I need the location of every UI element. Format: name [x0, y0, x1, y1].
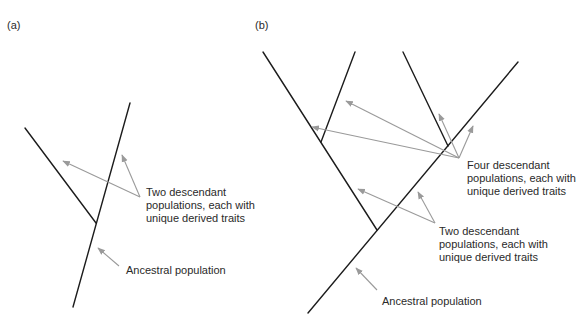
arrow-icon — [312, 127, 459, 158]
arrow-icon — [98, 248, 119, 266]
ancestral-lineage-a — [73, 103, 130, 307]
left-subbranch — [321, 52, 355, 142]
annotation-two-descendants-b: Two descendant populations, each with un… — [439, 225, 548, 264]
panel-a-arrows — [63, 155, 140, 266]
annotation-line: unique derived traits — [439, 251, 548, 264]
annotation-line: unique derived traits — [467, 185, 576, 198]
annotation-two-descendants-a: Two descendant populations, each with un… — [146, 186, 255, 225]
panel-a-tree — [25, 103, 130, 307]
annotation-line: unique derived traits — [146, 212, 255, 225]
annotation-line: populations, each with — [146, 199, 255, 212]
annotation-ancestral-b: Ancestral population — [382, 295, 482, 308]
annotation-line: Two descendant — [146, 186, 255, 199]
left-clade-branch — [263, 52, 377, 230]
arrow-icon — [346, 101, 459, 158]
annotation-line: Two descendant — [439, 225, 548, 238]
arrow-icon — [122, 155, 140, 197]
arrow-icon — [418, 192, 435, 223]
annotation-line: Four descendant — [467, 159, 576, 172]
panel-a-label: (a) — [7, 19, 20, 32]
phylogeny-figure: (a) (b) Two descendant populations, each… — [0, 0, 583, 321]
descendant-branch-a — [25, 128, 96, 223]
arrow-icon — [356, 268, 377, 290]
annotation-four-descendants-b: Four descendant populations, each with u… — [467, 159, 576, 198]
annotation-ancestral-a: Ancestral population — [126, 264, 226, 277]
annotation-line: populations, each with — [467, 172, 576, 185]
panel-b-label: (b) — [255, 19, 268, 32]
annotation-line: populations, each with — [439, 238, 548, 251]
arrow-icon — [63, 161, 140, 197]
right-subbranch — [403, 52, 448, 146]
